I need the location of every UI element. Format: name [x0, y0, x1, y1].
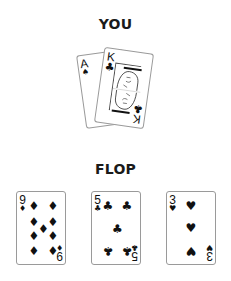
flop-card-nine-of-diamonds[interactable]: 9 ♦ ♦ ♦ ♦ ♦ ♦ ♦ ♦ ♦ ♦ 9 ♦	[16, 191, 66, 265]
hole-card-king-of-clubs[interactable]: K ♣ K ♣	[94, 47, 154, 129]
diamond-icon: ♦	[19, 205, 26, 213]
card-corner: K ♣	[131, 103, 144, 126]
diamond-icon: ♦	[29, 200, 40, 212]
card-corner: 5 ♣	[131, 243, 138, 262]
club-icon: ♣	[103, 200, 114, 212]
club-icon: ♣	[112, 223, 123, 235]
spade-icon: ♠	[81, 68, 89, 77]
club-icon: ♣	[133, 103, 144, 115]
card-corner: 5 ♣	[94, 194, 101, 213]
club-icon: ♣	[103, 245, 114, 257]
club-icon: ♣	[122, 200, 133, 212]
diamond-icon: ♦	[29, 245, 40, 257]
heart-icon: ♥	[186, 245, 197, 257]
diamond-icon: ♦	[48, 200, 59, 212]
heart-icon: ♥	[169, 205, 176, 213]
club-icon: ♣	[94, 205, 101, 213]
flop-section-title: FLOP	[0, 161, 231, 177]
you-section-title: YOU	[0, 16, 231, 32]
card-corner: A ♠	[79, 57, 90, 77]
diamond-icon: ♦	[48, 230, 59, 242]
card-corner: 3 ♥	[206, 243, 213, 262]
flop-card-five-of-clubs[interactable]: 5 ♣ ♣ ♣ ♣ ♣ ♣ 5 ♣	[91, 191, 141, 265]
diamond-icon: ♦	[48, 216, 59, 228]
flop-card-three-of-hearts[interactable]: 3 ♥ ♥ ♥ ♥ 3 ♥	[166, 191, 216, 265]
card-corner: 9 ♦	[56, 243, 63, 262]
heart-icon: ♥	[186, 200, 197, 212]
heart-icon: ♥	[186, 222, 197, 234]
diamond-icon: ♦	[56, 243, 63, 251]
card-corner: 9 ♦	[19, 194, 26, 213]
heart-icon: ♥	[206, 243, 213, 251]
club-icon: ♣	[131, 243, 138, 251]
card-corner: 3 ♥	[169, 194, 176, 213]
diamond-icon: ♦	[29, 230, 40, 242]
